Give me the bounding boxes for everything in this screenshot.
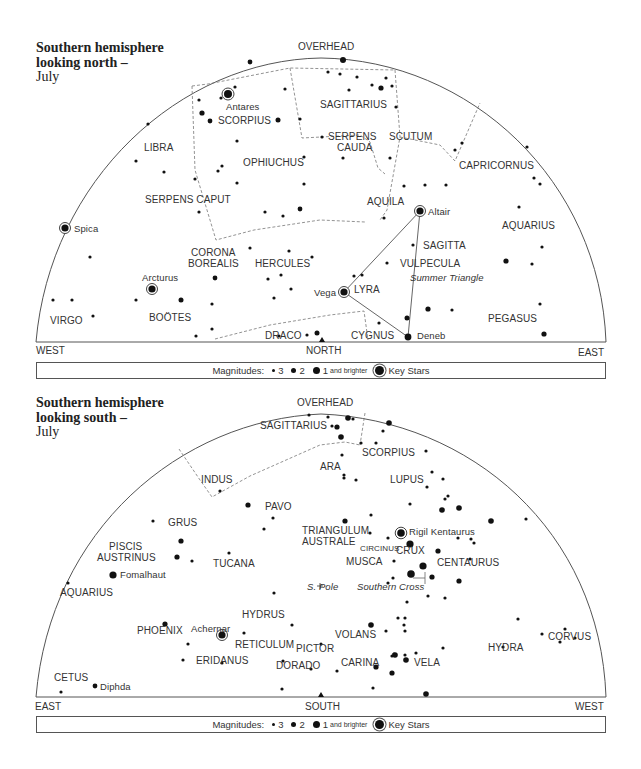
constellation-label: CRUX <box>396 545 425 556</box>
legend-mag-1: 1 <box>323 365 328 376</box>
constellation-label: CYGNUS <box>351 330 394 341</box>
constellation-label: PHOENIX <box>137 625 183 636</box>
title-month: July <box>36 425 164 440</box>
key-star-icon <box>375 366 384 375</box>
constellation-label: AQUARIUS <box>502 220 555 231</box>
constellation-label: OPHIUCHUS <box>243 157 304 168</box>
constellation-label: CORVUS <box>548 631 591 642</box>
chart-title: Southern hemisphere looking north – July <box>36 41 164 85</box>
constellation-label: VULPECULA <box>400 258 460 269</box>
constellation-label: LYRA <box>354 284 380 295</box>
direction-north: NORTH <box>306 345 341 356</box>
asterism-label: Southern Cross <box>357 581 424 592</box>
constellation-label: AQUILA <box>367 196 404 207</box>
constellation-label: CORONA <box>191 247 236 258</box>
direction-west: WEST <box>575 701 604 712</box>
legend-label: Magnitudes: <box>212 365 264 376</box>
direction-east: EAST <box>35 701 61 712</box>
constellation-label: DORADO <box>276 660 321 671</box>
constellation-label: PISCIS <box>109 541 142 552</box>
direction-south: SOUTH <box>305 701 340 712</box>
constellation-label: SCORPIUS <box>218 115 271 126</box>
constellation-label: GRUS <box>168 517 197 528</box>
legend-mag-1-suffix: and brighter <box>330 367 367 374</box>
constellation-label: VELA <box>414 657 440 668</box>
title-month: July <box>36 70 164 85</box>
key-star-label: Antares <box>226 101 259 112</box>
constellation-label: CENTAURUS <box>437 557 499 568</box>
legend-key-stars: Key Stars <box>388 719 429 730</box>
direction-overhead: OVERHEAD <box>297 397 353 408</box>
mag-2-dot-icon <box>291 722 296 727</box>
mag-3-dot-icon <box>272 369 275 372</box>
mag-1-dot-icon <box>313 721 320 728</box>
constellation-label: AUSTRINUS <box>97 552 156 563</box>
chart-title: Southern hemisphere looking south – July <box>36 396 164 440</box>
star-chart-looking-south: Southern hemisphere looking south – July… <box>0 385 641 769</box>
constellation-label: SAGITTARIUS <box>320 99 387 110</box>
constellation-label: CAUDA <box>337 142 373 153</box>
mag-2-dot-icon <box>291 368 296 373</box>
constellation-label: CETUS <box>54 672 88 683</box>
stars-mag-3 <box>51 70 543 337</box>
title-line-2: looking south – <box>36 411 164 426</box>
legend-mag-2: 2 <box>299 719 304 730</box>
key-star-label: Altair <box>428 206 450 217</box>
legend-mag-3: 3 <box>278 719 283 730</box>
constellation-label: SERPENS CAPUT <box>145 194 231 205</box>
mag-3-dot-icon <box>272 723 275 726</box>
legend-key-stars: Key Stars <box>388 365 429 376</box>
direction-overhead: OVERHEAD <box>298 41 354 52</box>
constellation-label: BOREALIS <box>188 258 239 269</box>
constellation-label: RETICULUM <box>235 639 294 650</box>
constellation-label: SCORPIUS <box>362 447 415 458</box>
title-line-1: Southern hemisphere <box>36 41 164 56</box>
key-star-icon <box>375 720 384 729</box>
title-line-2: looking north – <box>36 56 164 71</box>
key-star-label: Spica <box>74 223 98 234</box>
constellation-label: HERCULES <box>255 258 310 269</box>
constellation-label: HYDRUS <box>242 609 285 620</box>
constellation-label: SCUTUM <box>389 131 432 142</box>
legend-label: Magnitudes: <box>212 719 264 730</box>
constellation-label: SAGITTA <box>423 240 466 251</box>
constellation-label: INDUS <box>201 474 233 485</box>
constellation-label: CARINA <box>341 657 379 668</box>
magnitude-legend: Magnitudes: 3 2 1and brighter Key Stars <box>36 716 606 733</box>
constellation-label: LIBRA <box>144 142 173 153</box>
legend-mag-1-suffix: and brighter <box>330 721 367 728</box>
constellation-label: VOLANS <box>335 629 376 640</box>
title-line-1: Southern hemisphere <box>36 396 164 411</box>
star-label: Diphda <box>100 681 131 692</box>
south-pole-label: S. Pole <box>307 581 338 592</box>
legend-mag-1: 1 <box>323 719 328 730</box>
asterism-label: Summer Triangle <box>410 272 484 283</box>
constellation-label: PICTOR <box>296 643 334 654</box>
constellation-label: SAGITTARIUS <box>260 420 327 431</box>
star-chart-looking-north: Southern hemisphere looking north – July… <box>0 0 641 385</box>
constellation-label: HYDRA <box>488 642 524 653</box>
constellation-label-small: CIRCINUS <box>360 543 399 554</box>
constellation-label: AUSTRALE <box>302 536 356 547</box>
constellation-label: SERPENS <box>328 131 377 142</box>
constellation-label: BOÖTES <box>149 312 191 323</box>
key-star-label: Rigil Kentaurus <box>409 526 475 537</box>
key-star-label: Arcturus <box>142 272 178 283</box>
constellation-label: TUCANA <box>213 558 255 569</box>
constellation-label: ERIDANUS <box>196 655 248 666</box>
constellation-label: ARA <box>320 461 341 472</box>
legend-mag-2: 2 <box>299 365 304 376</box>
constellation-label: PEGASUS <box>488 313 537 324</box>
constellation-label: LUPUS <box>390 474 424 485</box>
constellation-label: TRIANGULUM <box>302 525 369 536</box>
key-star-label: Vega <box>314 287 336 298</box>
constellation-label: MUSCA <box>346 556 383 567</box>
legend-mag-3: 3 <box>278 365 283 376</box>
direction-west: WEST <box>36 345 65 356</box>
key-star-label: Achernar <box>191 623 230 634</box>
direction-east: EAST <box>578 347 604 358</box>
star-label: Fomalhaut <box>120 569 166 580</box>
constellation-label: VIRGO <box>50 315 83 326</box>
magnitude-legend: Magnitudes: 3 2 1and brighter Key Stars <box>36 362 606 379</box>
mag-1-dot-icon <box>313 367 320 374</box>
